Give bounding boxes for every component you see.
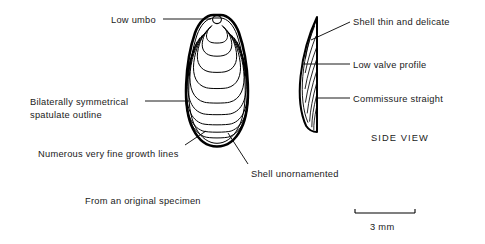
front-view-shell [186,15,248,147]
figure-caption: From an original specimen [85,196,201,206]
label-low-umbo: Low umbo [111,14,156,27]
label-low-valve-profile: Low valve profile [353,59,427,72]
growth-line [186,38,247,125]
umbo-mark [213,16,222,24]
label-shell-thin-and-delicate: Shell thin and delicate [353,16,450,29]
label-growth-lines: Numerous very fine growth lines [38,148,179,161]
scale-bar [355,209,415,213]
label-bilaterally-symmetrical-line1: Bilaterally symmetrical [30,96,128,109]
side-view-title: SIDE VIEW [371,133,429,143]
label-bilaterally-symmetrical: Bilaterally symmetrical spatulate outlin… [30,96,128,121]
shell-illustration-figure: Low umbo Bilaterally symmetrical spatula… [0,0,485,244]
illustration-artwork [0,0,485,244]
label-shell-unornamented: Shell unornamented [251,168,339,181]
growth-line [186,47,248,138]
label-bilaterally-symmetrical-line2: spatulate outline [30,109,128,122]
leader-shell-unornamented [228,133,248,164]
side-view-valve [300,17,317,132]
label-commissure-straight: Commissure straight [353,93,443,106]
scale-bar-label: 3 mm [370,222,394,232]
